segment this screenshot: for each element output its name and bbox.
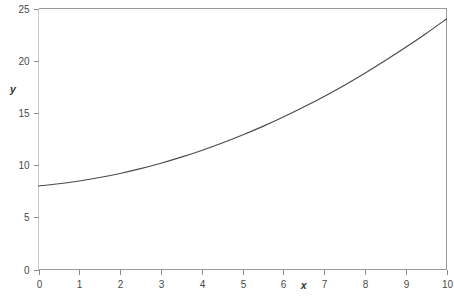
chart-figure: 0510152025 012345678910 y x bbox=[0, 0, 454, 296]
x-tick-label: 8 bbox=[363, 279, 369, 290]
x-tick-label: 1 bbox=[77, 279, 83, 290]
y-axis-label: y bbox=[9, 83, 17, 95]
y-tick-label: 25 bbox=[18, 4, 30, 15]
y-tick-label: 20 bbox=[18, 56, 30, 67]
line-chart: 0510152025 012345678910 y x bbox=[0, 0, 454, 296]
x-tick-label: 6 bbox=[281, 279, 287, 290]
x-tick-label: 10 bbox=[442, 279, 454, 290]
x-axis-label: x bbox=[300, 279, 308, 291]
x-tick-label: 2 bbox=[118, 279, 124, 290]
x-tick-label: 4 bbox=[200, 279, 206, 290]
x-tick-label: 0 bbox=[37, 279, 43, 290]
y-tick-label: 10 bbox=[18, 160, 30, 171]
x-tick-label: 9 bbox=[404, 279, 410, 290]
x-tick-label: 5 bbox=[241, 279, 247, 290]
chart-background bbox=[0, 0, 454, 296]
x-tick-label: 7 bbox=[322, 279, 328, 290]
y-tick-label: 15 bbox=[18, 108, 30, 119]
y-tick-label: 5 bbox=[24, 212, 30, 223]
y-tick-label: 0 bbox=[24, 265, 30, 276]
x-tick-label: 3 bbox=[159, 279, 165, 290]
